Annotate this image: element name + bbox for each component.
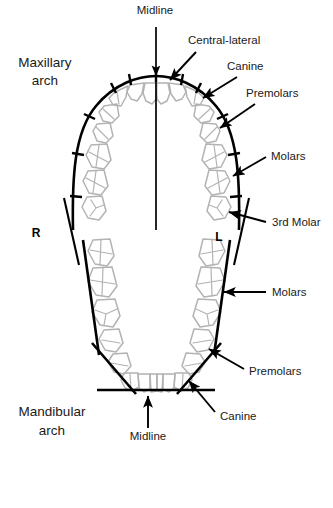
- callout-label-molars-upper: Molars: [271, 150, 306, 162]
- leader-canine-upper: [203, 77, 237, 98]
- mandibular-arch-label-line1: Mandibular: [19, 404, 86, 419]
- side-label-right: R: [32, 226, 41, 240]
- tooth-upper-left-central-incisor: [156, 83, 170, 104]
- callout-label-central-lateral: Central-lateral: [188, 34, 260, 46]
- mandibular-teeth-group: [88, 239, 225, 392]
- mandibular-arch-left-upper-stub: [234, 198, 249, 265]
- callout-label-canine-upper: Canine: [227, 60, 263, 72]
- tooth-lower-left-first-molar: [193, 299, 221, 327]
- maxillary-arch-label-line2: arch: [32, 73, 58, 88]
- tooth-lower-left-first-premolar-groove: [185, 363, 202, 366]
- dental-arch-figure: Maxillary arch Mandibular arch R L Midli…: [0, 0, 333, 508]
- leader-third-molar: [229, 212, 266, 222]
- callout-label-midline-bottom: Midline: [130, 430, 166, 442]
- callout-label-canine-lower: Canine: [220, 410, 256, 422]
- side-label-left: L: [215, 230, 222, 244]
- tooth-upper-right-central-incisor: [143, 83, 157, 104]
- tooth-upper-left-second-premolar: [200, 123, 220, 143]
- maxillary-tick-right-thirdmolar: [70, 196, 82, 197]
- mandibular-arch-right-upper-stub: [64, 198, 79, 265]
- text-labels: Maxillary arch Mandibular arch R L Midli…: [18, 4, 320, 442]
- maxillary-tick-left-incisor: [181, 74, 183, 85]
- callout-label-premolars-lower: Premolars: [249, 365, 302, 377]
- leader-canine-lower: [189, 381, 215, 412]
- tooth-upper-left-third-molar: [207, 196, 231, 220]
- tooth-upper-right-second-molar-grooves: [86, 171, 105, 193]
- tooth-upper-left-first-premolar: [194, 104, 214, 123]
- tooth-upper-left-second-premolar-groove: [205, 127, 217, 139]
- maxillary-tick-left-thirdmolar: [230, 196, 242, 197]
- maxillary-tick-left-molar: [228, 153, 240, 155]
- tooth-upper-right-first-premolar: [99, 104, 119, 123]
- tooth-upper-left-first-premolar-groove: [199, 109, 210, 119]
- dental-arch-svg: Maxillary arch Mandibular arch R L Midli…: [0, 0, 333, 508]
- tooth-upper-right-first-premolar-groove: [103, 109, 114, 119]
- leader-premolars-lower: [209, 349, 244, 369]
- tooth-lower-left-second-premolar-groove: [193, 340, 211, 343]
- tooth-upper-left-canine-ridge: [194, 92, 196, 104]
- maxillary-tick-right-molar: [72, 153, 84, 155]
- maxillary-arch-label-line1: Maxillary: [18, 55, 72, 70]
- maxillary-tick-right-incisor: [129, 74, 131, 85]
- mandibular-arch-label-line2: arch: [39, 423, 65, 438]
- tooth-upper-right-second-premolar: [93, 123, 113, 143]
- tooth-upper-left-lateral-incisor: [169, 83, 186, 101]
- tooth-upper-right-canine-ridge: [117, 92, 119, 104]
- tooth-upper-left-third-molar-grooves: [209, 200, 223, 216]
- tooth-upper-left-second-molar-grooves: [208, 171, 227, 193]
- tooth-lower-right-second-premolar-groove: [102, 340, 120, 343]
- callout-label-molars-lower: Molars: [272, 286, 307, 298]
- callout-label-midline-top: Midline: [137, 4, 173, 16]
- tooth-upper-right-second-premolar-groove: [96, 127, 108, 139]
- tooth-upper-right-first-molar-grooves: [89, 145, 108, 167]
- callout-label-third-molar: 3rd Molar: [272, 216, 321, 228]
- tooth-upper-right-lateral-incisor: [127, 83, 144, 101]
- tooth-lower-right-first-molar: [92, 299, 120, 327]
- tooth-upper-right-third-molar: [82, 196, 106, 220]
- tooth-upper-left-first-molar-grooves: [205, 145, 224, 167]
- tooth-lower-right-first-premolar-groove: [111, 363, 128, 366]
- callout-label-premolars-upper: Premolars: [246, 87, 299, 99]
- tooth-upper-right-third-molar-grooves: [90, 200, 104, 216]
